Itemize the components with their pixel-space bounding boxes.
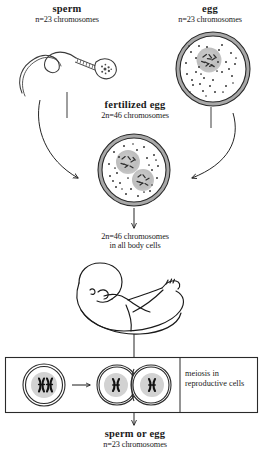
zygote-cell-icon [98,134,170,206]
reproduction-cycle-diagram: sperm n=23 chromosomes egg n=23 chromoso… [0,0,269,458]
sperm-cell-icon [20,52,117,96]
gamete-output-subtitle: n=23 chromosomes [56,440,214,449]
sperm-subtitle: n=23 chromosomes [8,15,126,24]
fertilized-egg-subtitle: 2n=46 chromosomes [62,111,208,120]
egg-cell-icon [176,32,250,106]
meiosis-caption-line2: reproductive cells [185,379,261,389]
diploid-cell-icon [23,364,65,406]
egg-subtitle: n=23 chromosomes [158,15,262,24]
sperm-title: sperm [8,3,126,15]
gamete-output-label: sperm or egg n=23 chromosomes [56,428,214,449]
gamete-output-title: sperm or egg [56,428,214,440]
body-cells-line2: in all body cells [56,241,214,250]
haploid-cell-pair-icon [97,365,171,405]
body-cells-label: 2n=46 chromosomes in all body cells [56,232,214,251]
fetus-icon [77,263,184,334]
egg-title: egg [158,3,262,15]
sperm-label: sperm n=23 chromosomes [8,3,126,24]
meiosis-caption: meiosis in reproductive cells [185,369,261,390]
fertilized-egg-title: fertilized egg [62,99,208,111]
meiosis-caption-line1: meiosis in [185,369,261,379]
egg-to-zygote-arrow [192,113,235,178]
fertilized-egg-label: fertilized egg 2n=46 chromosomes [62,99,208,120]
egg-label: egg n=23 chromosomes [158,3,262,24]
body-cells-line1: 2n=46 chromosomes [56,232,214,241]
